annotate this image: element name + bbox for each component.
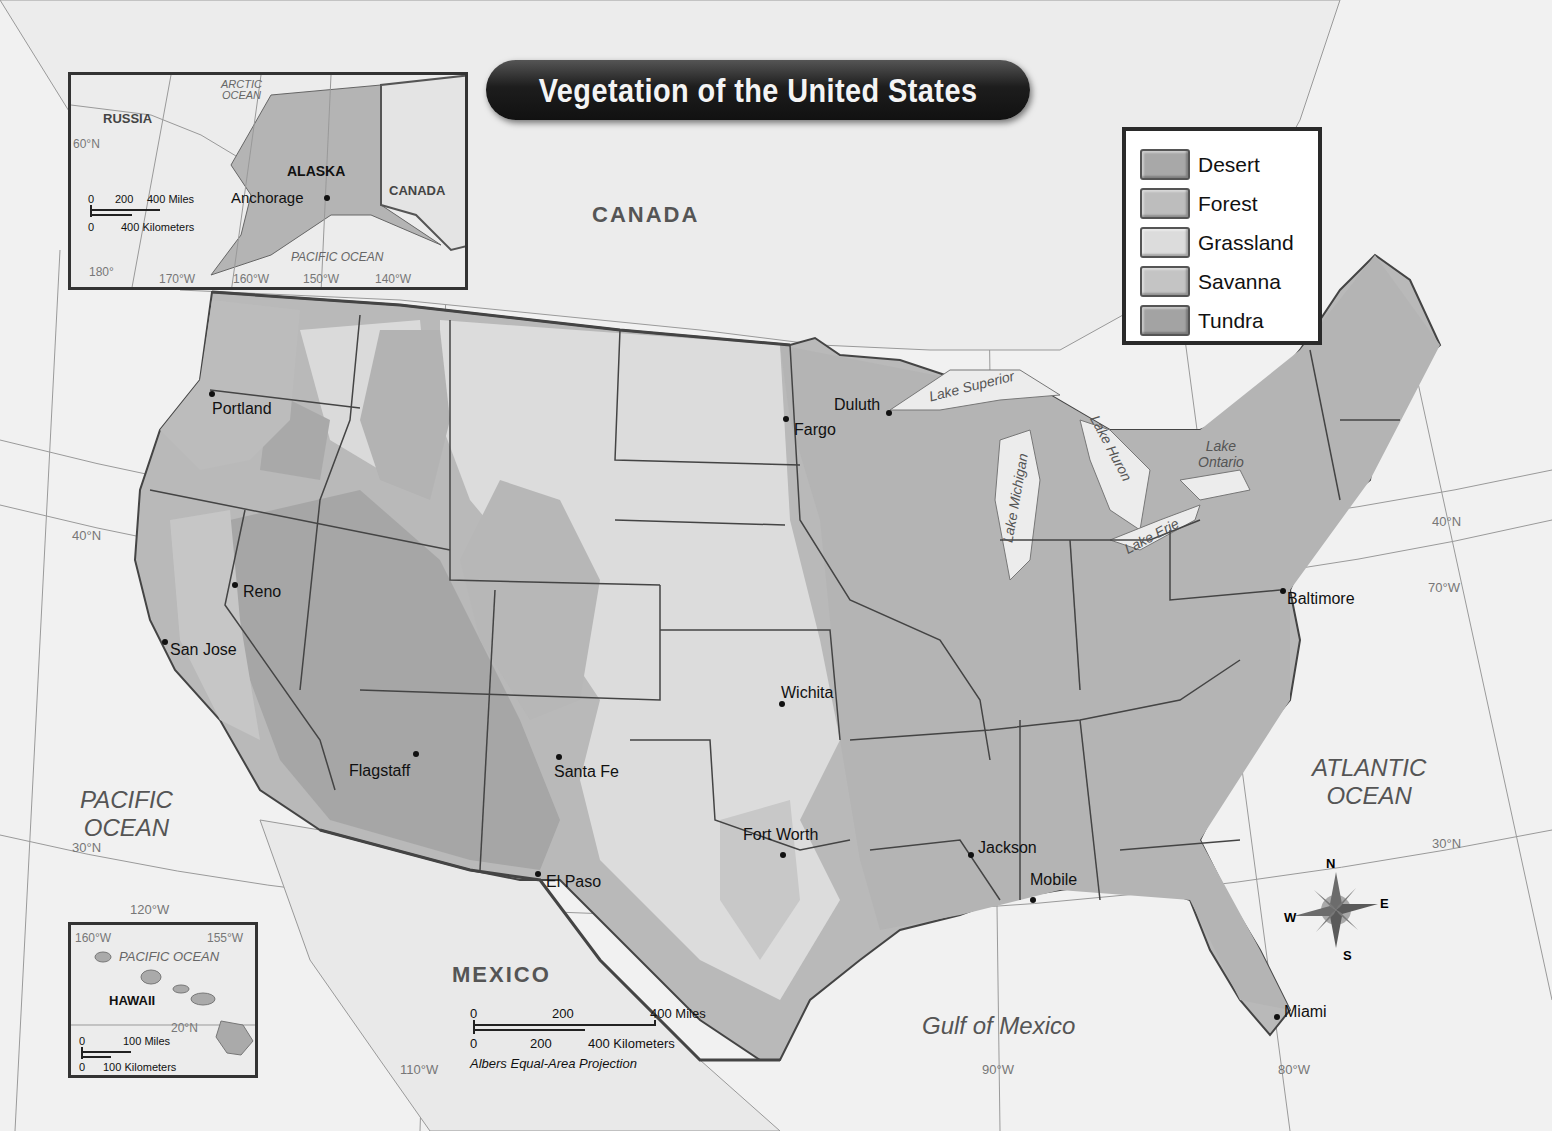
alaska-lon-140: 140°W [375,272,411,286]
alaska-canada-label: CANADA [389,183,445,198]
city-dot [556,754,562,760]
city-label: Santa Fe [554,763,619,781]
alaska-inset: RUSSIA ARCTICOCEAN ALASKA Anchorage CANA… [68,72,468,290]
country-label-mexico: MEXICO [452,962,551,988]
city-dot [1280,588,1286,594]
scale-bar: 0 200 400 Miles 0 200 400 Kilometers Alb… [470,1006,710,1076]
lake-label-ontario: LakeOntario [1198,438,1244,470]
city-label: San Jose [170,641,237,659]
city-dot [413,751,419,757]
hawaii-pacific-label: PACIFIC OCEAN [119,949,219,964]
city-label: Flagstaff [349,762,410,780]
alaska-lon-150: 150°W [303,272,339,286]
gridline-label-120w: 120°W [130,902,169,917]
city-dot [783,416,789,422]
hawaii-lon-155: 155°W [207,931,243,945]
city-dot [886,410,892,416]
legend-item-forest: Forest [1140,184,1318,223]
legend: Desert Forest Grassland Savanna Tundra [1122,127,1322,345]
ocean-label-gulf: Gulf of Mexico [922,1012,1075,1040]
city-label: Duluth [834,396,880,414]
gridline-label-90w: 90°W [982,1062,1014,1077]
legend-item-grassland: Grassland [1140,223,1318,262]
legend-swatch-savanna [1140,266,1190,297]
city-label: El Paso [546,873,601,891]
city-dot [232,582,238,588]
legend-swatch-forest [1140,188,1190,219]
city-dot [162,639,168,645]
city-dot-anchorage [324,195,330,201]
alaska-lon-170: 170°W [159,272,195,286]
map-title-text: Vegetation of the United States [539,71,978,110]
city-dot [209,391,215,397]
legend-item-tundra: Tundra [1140,301,1318,340]
hawaii-lon-160: 160°W [75,931,111,945]
city-label: Mobile [1030,871,1077,889]
city-label: Miami [1284,1003,1327,1021]
city-label: Wichita [781,684,833,702]
gridline-label-30n-west: 30°N [72,840,101,855]
alaska-state-label: ALASKA [287,163,345,179]
city-label: Fort Worth [743,826,818,844]
map-title: Vegetation of the United States [486,60,1030,120]
alaska-arctic-label: ARCTICOCEAN [221,79,262,101]
city-dot [1274,1014,1280,1020]
alaska-pacific-label: PACIFIC OCEAN [291,250,383,264]
city-label: Baltimore [1287,590,1355,608]
country-label-canada: CANADA [592,202,699,228]
alaska-lon-160: 160°W [233,272,269,286]
city-dot [780,852,786,858]
alaska-city-anchorage: Anchorage [231,189,304,206]
city-dot [535,871,541,877]
compass-s: S [1343,948,1352,963]
ocean-label-pacific: PACIFICOCEAN [80,786,173,842]
alaska-lat-60: 60°N [73,137,100,151]
gridline-label-40n-west: 40°N [72,528,101,543]
gridline-label-40n-east: 40°N [1432,514,1461,529]
legend-item-savanna: Savanna [1140,262,1318,301]
hawaii-lat-20: 20°N [171,1021,198,1035]
gridline-label-110w: 110°W [400,1062,438,1077]
hawaii-state-label: HAWAII [109,993,155,1008]
city-label: Jackson [978,839,1037,857]
compass-w: W [1284,910,1296,925]
city-dot [968,852,974,858]
alaska-lon-180: 180° [89,265,114,279]
compass-e: E [1380,896,1389,911]
legend-swatch-tundra [1140,305,1190,336]
city-label: Portland [212,400,272,418]
city-label: Reno [243,583,281,601]
gridline-label-30n-east: 30°N [1432,836,1461,851]
compass-n: N [1326,856,1335,871]
gridline-label-70w: 70°W [1428,580,1460,595]
gridline-label-80w: 80°W [1278,1062,1310,1077]
legend-swatch-grassland [1140,227,1190,258]
alaska-russia-label: RUSSIA [103,111,152,126]
city-dot [1030,897,1036,903]
city-label: Fargo [794,421,836,439]
hawaii-inset: 160°W 155°W PACIFIC OCEAN HAWAII 20°N 0 … [68,922,258,1078]
legend-swatch-desert [1140,149,1190,180]
ocean-label-atlantic: ATLANTICOCEAN [1312,754,1426,810]
legend-item-desert: Desert [1140,145,1318,184]
